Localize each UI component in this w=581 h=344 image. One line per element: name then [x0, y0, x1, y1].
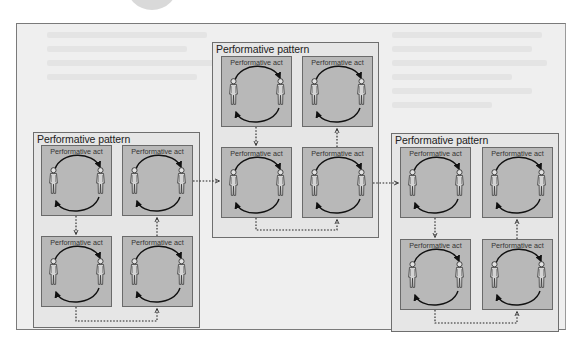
act-title: Performative act	[483, 149, 552, 158]
performative-act: Performative act	[122, 145, 193, 216]
act-title: Performative act	[483, 241, 552, 250]
performative-act: Performative act	[122, 236, 193, 307]
bleed-through-text	[392, 32, 542, 38]
act-title: Performative act	[42, 238, 111, 247]
performative-act: Performative act	[400, 239, 471, 310]
bleed-through-text	[392, 74, 512, 80]
pattern-title: Performative pattern	[395, 134, 488, 146]
performative-act: Performative act	[221, 147, 292, 218]
bleed-through-text	[392, 46, 532, 52]
performative-act: Performative act	[482, 147, 553, 218]
bleed-through-text	[47, 60, 217, 66]
performative-act: Performative act	[482, 239, 553, 310]
act-title: Performative act	[222, 58, 291, 67]
bleed-through-text	[392, 88, 532, 94]
bleed-through-text	[47, 32, 207, 38]
act-title: Performative act	[303, 58, 372, 67]
bleed-through-text	[47, 74, 197, 80]
performative-act: Performative act	[400, 147, 471, 218]
pattern-title: Performative pattern	[216, 43, 309, 55]
background-circle	[126, 0, 178, 10]
pattern-title: Performative pattern	[37, 133, 130, 145]
bleed-through-text	[47, 46, 187, 52]
performative-act: Performative act	[41, 145, 112, 216]
act-title: Performative act	[401, 149, 470, 158]
performative-act: Performative act	[41, 236, 112, 307]
act-title: Performative act	[42, 147, 111, 156]
act-title: Performative act	[303, 149, 372, 158]
performative-act: Performative act	[221, 56, 292, 127]
act-title: Performative act	[123, 238, 192, 247]
bleed-through-text	[392, 102, 492, 108]
act-title: Performative act	[401, 241, 470, 250]
performative-act: Performative act	[302, 56, 373, 127]
act-title: Performative act	[222, 149, 291, 158]
act-title: Performative act	[123, 147, 192, 156]
bleed-through-text	[392, 60, 547, 66]
performative-act: Performative act	[302, 147, 373, 218]
